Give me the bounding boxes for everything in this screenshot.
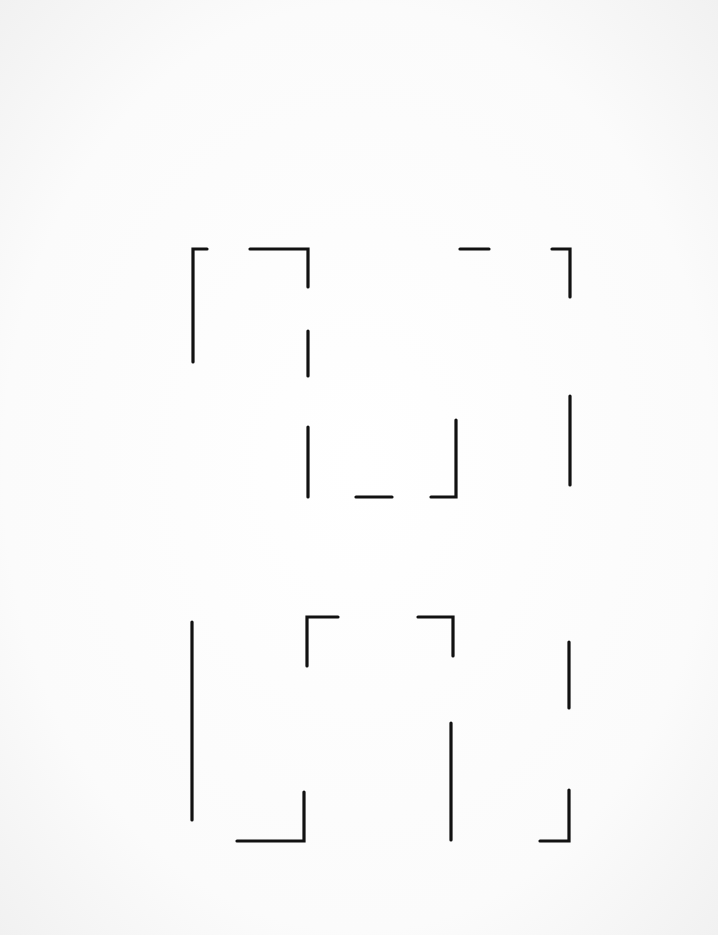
segment: [431, 420, 456, 497]
segment: [193, 249, 207, 362]
line-drawing: [0, 0, 718, 935]
segment: [237, 792, 304, 841]
segment: [250, 249, 308, 287]
segment: [418, 617, 453, 656]
segment: [552, 249, 570, 297]
segment: [307, 617, 338, 666]
drawing-canvas: [0, 0, 718, 935]
bottom-figure: [192, 617, 569, 841]
top-figure: [193, 249, 570, 497]
segment: [540, 790, 569, 841]
